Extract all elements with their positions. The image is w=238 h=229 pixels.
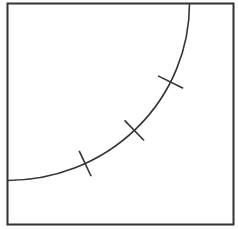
tick-mark-1: [79, 151, 91, 176]
quarter-arc: [8, 4, 190, 181]
frame: [8, 4, 234, 225]
diagram-canvas: [0, 0, 238, 229]
tick-mark-3: [158, 76, 183, 88]
